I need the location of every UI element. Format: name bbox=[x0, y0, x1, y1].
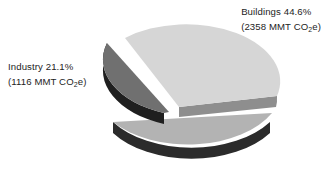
pie-chart-figure: Buildings 44.6% (2358 MMT CO2e) Industry… bbox=[0, 0, 325, 179]
slice-label-industry-line2: (1116 MMT CO2e) bbox=[8, 74, 86, 90]
slice-label-buildings-amount: (2358 MMT CO bbox=[241, 21, 308, 32]
slice-label-buildings-line2: (2358 MMT CO2e) bbox=[241, 19, 321, 35]
slice-label-industry-line1: Industry 21.1% bbox=[8, 59, 86, 74]
slice-label-industry-amount: (1116 MMT CO bbox=[8, 76, 74, 87]
slice-label-industry-suffix: e) bbox=[78, 76, 87, 87]
slice-label-buildings-suffix: e) bbox=[312, 21, 321, 32]
slice-label-buildings-subscript: 2 bbox=[308, 26, 312, 33]
slice-label-industry: Industry 21.1% (1116 MMT CO2e) bbox=[8, 59, 86, 90]
slice-label-buildings: Buildings 44.6% (2358 MMT CO2e) bbox=[241, 4, 321, 35]
slice-label-buildings-line1: Buildings 44.6% bbox=[241, 4, 321, 19]
slice-label-industry-subscript: 2 bbox=[74, 81, 78, 88]
